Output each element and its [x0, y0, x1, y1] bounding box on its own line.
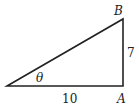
side-label-adjacent: 10 [62, 92, 77, 106]
triangle-diagram: B 7 θ 10 A [0, 0, 139, 107]
triangle-shape [7, 19, 123, 86]
angle-label-theta: θ [36, 71, 44, 85]
vertex-label-a: A [116, 92, 126, 106]
vertex-label-b: B [113, 4, 123, 18]
side-label-opposite: 7 [127, 46, 135, 60]
